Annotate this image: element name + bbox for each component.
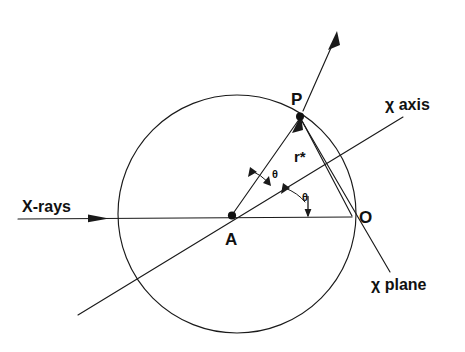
diffraction-diagram: X-rays A O P r* θ θ χ axis χ plane (0, 0, 465, 352)
theta-outer-arrow-b-icon (305, 209, 312, 218)
theta-inner-arrow-b-icon (263, 176, 271, 186)
theta-inner-label: θ (272, 168, 278, 180)
point-p-label: P (291, 90, 302, 109)
chi-axis-label: χ axis (385, 96, 430, 113)
theta-outer-arrow-a-icon (281, 183, 290, 194)
diffracted-beam-line (303, 41, 334, 111)
ewald-circle (118, 95, 356, 333)
theta-inner-arrow-a-icon (248, 167, 257, 177)
r-star-label: r* (294, 148, 306, 165)
xrays-label: X-rays (22, 198, 71, 215)
incident-beam-arrow-icon (88, 215, 109, 223)
point-o-label: O (359, 208, 372, 227)
theta-outer-label: θ (302, 191, 308, 203)
chi-axis-line (78, 117, 403, 315)
diffracted-beam-arrow-icon (328, 31, 340, 50)
incident-beam-line (18, 217, 352, 219)
point-a-label: A (225, 230, 237, 249)
figure-canvas: X-rays A O P r* θ θ χ axis χ plane (0, 0, 465, 352)
chi-plane-line (299, 116, 390, 272)
point-a-dot (228, 211, 236, 219)
chi-plane-label: χ plane (371, 276, 427, 293)
point-p-dot (296, 113, 304, 121)
